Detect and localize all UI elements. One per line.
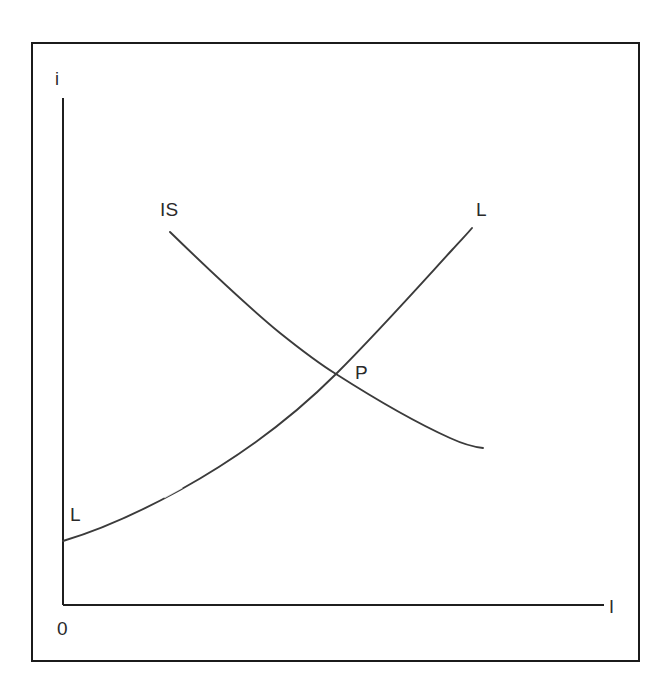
x-axis-label: I (609, 598, 614, 617)
is-curve-label: IS (160, 200, 179, 219)
figure-frame (31, 42, 640, 662)
figure-page: i 0 I IS L L P (0, 0, 667, 685)
lm-curve-label-bottom: L (70, 505, 81, 524)
equilibrium-point-label: P (355, 363, 368, 382)
origin-label: 0 (57, 619, 68, 638)
y-axis-label: i (55, 70, 59, 89)
lm-curve-label-top: L (476, 200, 487, 219)
